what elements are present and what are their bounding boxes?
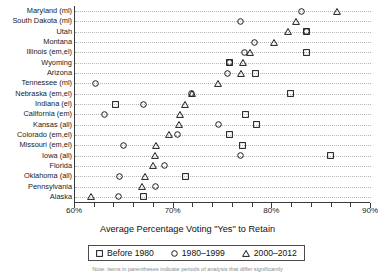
legend-item[interactable]: 2000–2012 xyxy=(242,248,297,258)
data-point-circle xyxy=(303,28,310,35)
x-axis-minor-tick xyxy=(212,203,213,207)
x-axis-minor-tick xyxy=(153,203,154,207)
x-axis-minor-tick xyxy=(94,203,95,207)
legend-square-icon xyxy=(96,250,103,257)
gridline-row xyxy=(75,94,371,95)
y-axis-label: Maryland (ml) xyxy=(0,7,72,15)
data-point-triangle xyxy=(165,131,172,138)
gridline-row xyxy=(75,73,371,74)
data-point-circle xyxy=(92,80,99,87)
legend-label: Before 1980 xyxy=(107,248,154,258)
gridline-row xyxy=(75,187,371,188)
data-point-circle xyxy=(120,142,127,149)
x-axis-minor-tick xyxy=(133,203,134,207)
legend-item[interactable]: Before 1980 xyxy=(96,248,154,258)
data-point-square xyxy=(242,111,249,118)
figure-caption: Note: items in parentheses indicate peri… xyxy=(0,266,375,272)
data-point-circle xyxy=(251,39,258,46)
gridline-row xyxy=(75,125,371,126)
y-axis-label: Tennessee (ml) xyxy=(0,79,72,87)
data-point-circle xyxy=(226,59,233,66)
legend-circle-icon xyxy=(171,250,178,257)
x-axis-minor-tick xyxy=(192,203,193,207)
legend-triangle-icon xyxy=(242,250,250,257)
x-axis-tick-label: 90% xyxy=(362,206,378,215)
y-axis-label: California (em) xyxy=(0,110,72,118)
data-point-square xyxy=(327,152,334,159)
data-point-square xyxy=(239,142,246,149)
legend-label: 2000–2012 xyxy=(254,248,297,258)
data-point-circle xyxy=(101,111,108,118)
x-axis-minor-tick xyxy=(311,203,312,207)
x-axis-tick-label: 60% xyxy=(66,206,82,215)
data-point-circle xyxy=(140,101,147,108)
data-point-triangle xyxy=(87,193,94,200)
data-point-triangle xyxy=(292,18,299,25)
data-point-circle xyxy=(161,162,168,169)
gridline-row xyxy=(75,114,371,115)
data-point-square xyxy=(252,70,259,77)
data-point-circle xyxy=(174,131,181,138)
y-axis-label: Montana xyxy=(0,38,72,46)
data-point-triangle xyxy=(151,152,158,159)
y-axis-label: South Dakota (ml) xyxy=(0,17,72,25)
data-point-circle xyxy=(224,70,231,77)
gridline-row xyxy=(75,21,371,22)
gridline-row xyxy=(75,166,371,167)
data-point-square xyxy=(140,193,147,200)
data-point-triangle xyxy=(237,70,244,77)
y-axis-label: Iowa (all) xyxy=(0,152,72,160)
y-axis-label: Utah xyxy=(0,28,72,36)
y-axis-label: Florida xyxy=(0,162,72,170)
gridline-row xyxy=(75,11,371,12)
y-axis-label: Alaska xyxy=(0,193,72,201)
data-point-triangle xyxy=(152,142,159,149)
data-point-triangle xyxy=(333,8,340,15)
data-point-square xyxy=(303,49,310,56)
data-point-triangle xyxy=(138,183,145,190)
x-axis-minor-tick xyxy=(232,203,233,207)
gridline-row xyxy=(75,52,371,53)
gridline-row xyxy=(75,42,371,43)
data-point-triangle xyxy=(141,173,148,180)
data-point-circle xyxy=(237,18,244,25)
data-point-triangle xyxy=(239,59,246,66)
data-point-triangle xyxy=(270,39,277,46)
data-point-square xyxy=(182,173,189,180)
data-point-square xyxy=(287,90,294,97)
gridline-row xyxy=(75,32,371,33)
gridline-row xyxy=(75,135,371,136)
y-axis-category-labels: Maryland (ml)South Dakota (ml)UtahMontan… xyxy=(0,0,72,200)
data-point-triangle xyxy=(246,49,253,56)
data-point-circle xyxy=(298,8,305,15)
data-point-circle xyxy=(237,152,244,159)
data-point-circle xyxy=(115,193,122,200)
legend-label: 1980–1999 xyxy=(182,248,225,258)
y-axis-label: Arizona xyxy=(0,69,72,77)
data-point-square xyxy=(226,131,233,138)
y-axis-label: Pennsylvania xyxy=(0,183,72,191)
legend: Before 19801980–19992000–2012 xyxy=(88,245,305,261)
gridline-row xyxy=(75,63,371,64)
legend-item[interactable]: 1980–1999 xyxy=(171,248,225,258)
x-axis-minor-tick xyxy=(291,203,292,207)
x-axis-minor-tick xyxy=(113,203,114,207)
data-point-triangle xyxy=(188,90,195,97)
gridline-row xyxy=(75,104,371,105)
y-axis-label: Colorado (em,el) xyxy=(0,131,72,139)
gridline-row xyxy=(75,83,371,84)
data-point-circle xyxy=(215,121,222,128)
x-axis-tick-label: 70% xyxy=(165,206,181,215)
data-point-triangle xyxy=(149,162,156,169)
y-axis-label: Oklahoma (all) xyxy=(0,172,72,180)
y-axis-label: Missouri (em,el) xyxy=(0,141,72,149)
y-axis-label: Indiana (el) xyxy=(0,100,72,108)
data-point-triangle xyxy=(176,111,183,118)
data-point-circle xyxy=(152,183,159,190)
x-axis-line xyxy=(74,202,370,203)
data-point-triangle xyxy=(214,80,221,87)
x-axis-title: Average Percentage Voting "Yes" to Retai… xyxy=(0,224,375,234)
data-point-circle xyxy=(116,173,123,180)
data-point-triangle xyxy=(175,121,182,128)
